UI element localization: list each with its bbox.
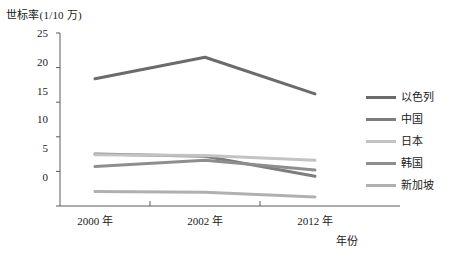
chart-legend: 以色列 中国 日本 韩国 新加坡 [366,86,464,196]
legend-label-singapore: 新加坡 [401,180,434,191]
legend-label-israel: 以色列 [401,92,434,103]
series-line-3 [95,160,315,170]
legend-swatch-israel [366,96,396,99]
legend-swatch-japan [366,140,396,143]
legend-swatch-singapore [366,184,396,187]
axis-lines [56,33,400,206]
legend-item-singapore: 新加坡 [366,174,464,196]
legend-item-china: 中国 [366,108,464,130]
legend-swatch-korea [366,162,396,165]
legend-item-japan: 日本 [366,130,464,152]
series-line-0 [95,57,315,94]
data-series-group [95,57,315,197]
chart-figure: 世标率(1/10 万) 25 20 15 10 5 0 2000 年 2002 … [0,0,466,253]
legend-item-israel: 以色列 [366,86,464,108]
legend-swatch-china [366,118,396,121]
legend-label-korea: 韩国 [401,158,423,169]
legend-item-korea: 韩国 [366,152,464,174]
legend-label-china: 中国 [401,114,423,125]
legend-label-japan: 日本 [401,136,423,147]
series-line-4 [95,191,315,197]
